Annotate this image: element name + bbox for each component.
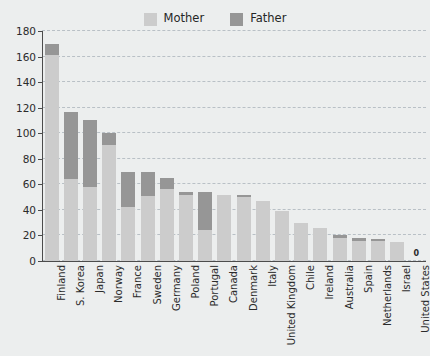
x-axis-tick-label-text: United Kingdom (286, 265, 297, 345)
x-axis-tick-labels: FinlandS. KoreaJapanNorwayFranceSwedenGe… (42, 261, 426, 356)
x-axis-tick-label-text: Netherlands (382, 265, 393, 326)
x-axis-tick-label-text: Italy (267, 265, 278, 287)
y-axis-tick-label: 180 (16, 25, 36, 37)
y-axis-tick-label: 80 (23, 153, 36, 165)
x-axis-tick-label: Ireland (324, 230, 335, 265)
gridline (42, 209, 426, 210)
x-axis-tick-label-text: Norway (113, 265, 124, 303)
y-axis-tick-label: 160 (16, 51, 36, 63)
y-axis-tick-label: 120 (16, 102, 36, 114)
x-axis-tick-label-text: Poland (190, 265, 201, 298)
x-axis-tick-label: Japan (94, 237, 105, 265)
x-axis-tick-label-text: Ireland (324, 265, 335, 300)
x-axis-tick-label-text: Sweden (152, 265, 163, 305)
legend-entry-mother[interactable]: Mother (144, 13, 205, 26)
bar-segment-father (45, 44, 59, 56)
x-axis-tick-label-text: Canada (228, 265, 239, 303)
bar-segment-father (160, 178, 174, 190)
y-axis-tick-label: 20 (23, 229, 36, 241)
x-axis-tick-label: Chile (305, 240, 316, 265)
x-axis-tick-label-text: France (132, 265, 143, 298)
x-axis-tick-label-text: Japan (94, 265, 105, 293)
legend-swatch-father (230, 13, 243, 26)
x-axis-tick-label: Israel (401, 238, 412, 265)
x-axis-tick-label-text: United States (420, 265, 430, 333)
gridline (42, 158, 426, 159)
chart-legend: Mother Father (0, 8, 430, 30)
x-axis-tick-label: Canada (228, 227, 239, 265)
chart-figure: Mother Father Weeks of paid leave 020406… (0, 0, 430, 356)
bar-segment-father (83, 120, 97, 186)
x-axis-tick-label-text: Chile (305, 265, 316, 290)
y-axis-line (42, 31, 43, 261)
bar-segment-father (179, 192, 193, 195)
x-axis-tick-label: Poland (190, 232, 201, 265)
x-axis-tick-label: Australia (344, 221, 355, 265)
legend-label-mother: Mother (164, 13, 205, 25)
y-axis-tick-labels: 020406080100120140160180 (0, 31, 42, 261)
x-axis-tick-label-text: Australia (344, 265, 355, 309)
y-axis-tick-label: 140 (16, 76, 36, 88)
x-axis-tick-label: Finland (56, 229, 67, 265)
x-axis-tick-label: S. Korea (75, 224, 86, 265)
legend-entry-father[interactable]: Father (230, 13, 286, 26)
legend-label-father: Father (250, 13, 286, 25)
y-axis-tick-label: 60 (23, 178, 36, 190)
x-axis-tick-label-text: Portugal (209, 265, 220, 306)
x-axis-tick-label: United States (420, 197, 430, 265)
x-axis-tick-label: Germany (171, 219, 182, 265)
y-axis-tick-label: 40 (23, 204, 36, 216)
bar-segment-father (237, 195, 251, 198)
bar-segment-father (121, 172, 135, 208)
zero-value-marker: 0 (414, 250, 420, 258)
y-axis-tick-label: 0 (29, 255, 36, 267)
y-axis-tick-label: 100 (16, 127, 36, 139)
x-axis-tick-label-text: Spain (363, 265, 374, 293)
gridline (42, 183, 426, 184)
bar-segment-father (141, 172, 155, 196)
x-axis-tick-label: Italy (267, 243, 278, 265)
x-axis-tick-label: Portugal (209, 224, 220, 265)
x-axis-tick-label-text: Germany (171, 265, 182, 311)
x-axis-tick-label-text: S. Korea (75, 265, 86, 306)
x-axis-tick-label-text: Israel (401, 265, 412, 292)
x-axis-tick-label-text: Finland (56, 265, 67, 301)
x-axis-tick-label: Norway (113, 227, 124, 265)
legend-swatch-mother (144, 13, 157, 26)
x-axis-tick-label: France (132, 232, 143, 265)
bar-segment-father (64, 112, 78, 180)
gridline (42, 81, 426, 82)
x-axis-tick-label-text: Denmark (248, 265, 259, 311)
gridline (42, 30, 426, 31)
x-axis-tick-label: United Kingdom (286, 185, 297, 265)
x-axis-tick-label: Denmark (248, 219, 259, 265)
x-axis-tick-label: Netherlands (382, 204, 393, 265)
bar-segment-father (102, 133, 116, 145)
gridline (42, 132, 426, 133)
x-axis-tick-label: Spain (363, 237, 374, 265)
gridline (42, 56, 426, 57)
gridline (42, 107, 426, 108)
x-axis-tick-label: Sweden (152, 225, 163, 265)
